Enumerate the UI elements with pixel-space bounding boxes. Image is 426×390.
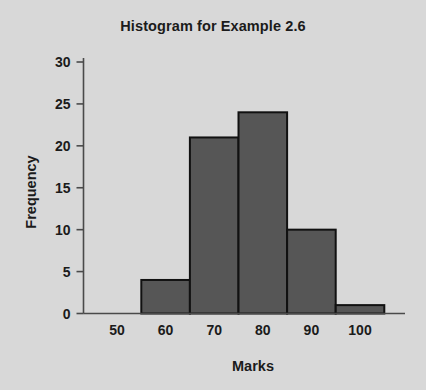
histogram-bar <box>287 230 336 314</box>
y-ticks-group: 051015202530 <box>55 54 84 322</box>
y-tick-label: 20 <box>55 138 71 154</box>
y-tick-label: 30 <box>55 54 71 70</box>
x-tick-label: 90 <box>304 322 320 338</box>
y-tick-label: 5 <box>63 264 71 280</box>
y-tick-label: 15 <box>55 180 71 196</box>
y-tick-label: 10 <box>55 222 71 238</box>
y-tick-label: 0 <box>63 306 71 322</box>
x-axis-title: Marks <box>232 358 274 374</box>
x-ticks-group: 5060708090100 <box>109 322 372 338</box>
histogram-bar <box>239 112 288 313</box>
histogram-figure: Histogram for Example 2.6 051015202530 5… <box>0 0 426 390</box>
histogram-bar <box>190 137 239 313</box>
x-tick-label: 60 <box>158 322 174 338</box>
plot-area: 051015202530 5060708090100 Marks Frequen… <box>0 0 426 390</box>
x-tick-label: 50 <box>109 322 125 338</box>
bars-group <box>141 112 384 313</box>
y-axis-title: Frequency <box>23 155 39 228</box>
x-tick-label: 70 <box>206 322 222 338</box>
x-tick-label: 100 <box>348 322 372 338</box>
y-tick-label: 25 <box>55 96 71 112</box>
histogram-bar <box>141 280 190 314</box>
x-tick-label: 80 <box>255 322 271 338</box>
histogram-bar <box>336 305 385 313</box>
